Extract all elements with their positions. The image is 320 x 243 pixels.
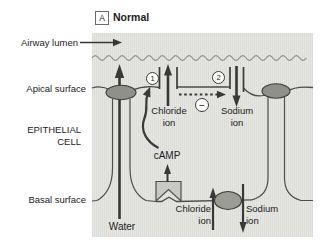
basal-chloride-label-line2: ion [176,215,211,227]
epithelial-cell-label-line1: EPITHELIAL [27,124,81,136]
apical-sodium-label: Sodium ion [207,105,267,128]
basal-sodium-label-line2: ion [246,215,278,227]
basal-sodium-label: Sodium ion [246,203,278,226]
apical-sodium-label-line2: ion [207,117,267,129]
panel-label: A [99,13,105,23]
epithelial-cell-label-line2: CELL [27,136,81,148]
tight-junction-left [106,85,136,99]
basal-chloride-label: Chloride ion [176,203,211,226]
apical-surface-label: Apical surface [26,83,86,95]
water-label: Water [92,221,152,233]
basal-sodium-label-line1: Sodium [246,203,278,215]
apical-chloride-label: Chloride ion [139,105,199,128]
basal-chloride-label-line1: Chloride [176,203,211,215]
apical-chloride-label-line2: ion [139,117,199,129]
apical-chloride-label-line1: Chloride [139,105,199,117]
basal-sodium-pump [215,192,242,210]
camp-label: cAMP [137,150,197,162]
basal-surface-label: Basal surface [28,194,86,206]
step-2-number: 2 [216,73,220,82]
figure-panel: A Normal Airway lumen Apical surface EPI… [0,0,320,243]
step-1-number: 1 [150,74,154,83]
step-2-badge: 2 [212,71,225,84]
step-1-badge: 1 [146,72,159,85]
panel-label-box: A [95,11,109,25]
panel-title: Normal [113,11,149,23]
tight-junction-right [262,84,290,98]
airway-lumen-label: Airway lumen [21,37,78,49]
apical-sodium-label-line1: Sodium [207,105,267,117]
inhibition-symbol: − [199,100,205,111]
epithelial-cell-label: EPITHELIAL CELL [27,124,81,148]
